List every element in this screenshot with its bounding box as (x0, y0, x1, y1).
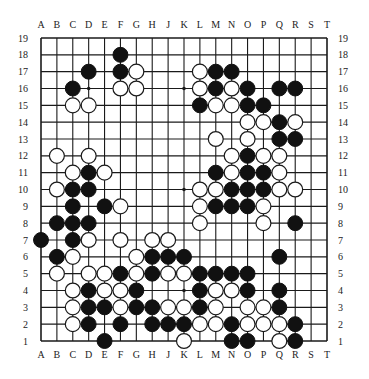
black-stone-Q16 (272, 81, 287, 96)
black-stone-Q4 (272, 283, 287, 298)
column-labels-top: ABCDEFGHJKLMNOPQRST (37, 19, 330, 30)
row-label: 12 (338, 150, 348, 161)
white-stone-K3 (177, 300, 192, 315)
column-label: P (261, 19, 267, 30)
white-stone-P8 (256, 216, 271, 231)
column-label: E (102, 19, 108, 30)
column-label: J (166, 19, 170, 30)
white-stone-C15 (65, 98, 80, 113)
white-stone-P12 (256, 148, 271, 163)
row-label: 6 (23, 251, 28, 262)
row-label: 10 (18, 184, 28, 195)
row-label: 17 (338, 66, 348, 77)
black-stone-F18 (113, 47, 128, 62)
black-stone-H6 (145, 249, 160, 264)
column-label: M (211, 349, 220, 360)
column-label: B (54, 19, 61, 30)
white-stone-M10 (208, 182, 223, 197)
row-label: 5 (23, 268, 28, 279)
white-stone-G17 (129, 64, 144, 79)
go-board: ABCDEFGHJKLMNOPQRST ABCDEFGHJKLMNOPQRST … (0, 0, 369, 379)
row-label: 3 (23, 302, 28, 313)
white-stone-N12 (224, 148, 239, 163)
white-stone-B10 (49, 182, 64, 197)
row-label: 14 (18, 117, 28, 128)
white-stone-F3 (113, 300, 128, 315)
star-point (87, 87, 91, 91)
black-stone-O5 (240, 266, 255, 281)
white-stone-N16 (224, 81, 239, 96)
column-label: N (228, 19, 235, 30)
star-point (182, 188, 186, 192)
column-label: S (308, 19, 314, 30)
column-label: R (292, 349, 299, 360)
column-label: T (324, 349, 330, 360)
row-label: 6 (338, 251, 343, 262)
black-stone-H2 (145, 317, 160, 332)
white-stone-M3 (208, 300, 223, 315)
black-stone-O4 (240, 283, 255, 298)
white-stone-Q12 (272, 148, 287, 163)
white-stone-M15 (208, 98, 223, 113)
white-stone-G5 (129, 266, 144, 281)
white-stone-O3 (240, 300, 255, 315)
row-label: 19 (338, 33, 348, 44)
white-stone-C3 (65, 300, 80, 315)
black-stone-B6 (49, 249, 64, 264)
black-stone-L15 (192, 98, 207, 113)
black-stone-M5 (208, 266, 223, 281)
black-stone-M17 (208, 64, 223, 79)
white-stone-G6 (129, 249, 144, 264)
white-stone-B12 (49, 148, 64, 163)
row-label: 16 (18, 83, 28, 94)
row-label: 18 (18, 49, 28, 60)
black-stone-L5 (192, 266, 207, 281)
white-stone-L9 (192, 199, 207, 214)
white-stone-O14 (240, 115, 255, 130)
black-stone-E1 (97, 334, 112, 349)
black-stone-F5 (113, 266, 128, 281)
white-stone-L17 (192, 64, 207, 79)
black-stone-F2 (113, 317, 128, 332)
row-label: 18 (338, 49, 348, 60)
black-stone-O10 (240, 182, 255, 197)
white-stone-Q1 (272, 334, 287, 349)
row-label: 2 (23, 319, 28, 330)
black-stone-C16 (65, 81, 80, 96)
column-label: T (324, 19, 330, 30)
column-label: F (118, 349, 124, 360)
black-stone-C7 (65, 233, 80, 248)
row-label: 7 (23, 235, 28, 246)
column-label: F (118, 19, 124, 30)
black-stone-K6 (177, 249, 192, 264)
black-stone-H5 (145, 266, 160, 281)
black-stone-D2 (81, 317, 96, 332)
column-label: N (228, 349, 235, 360)
black-stone-M9 (208, 199, 223, 214)
white-stone-K5 (177, 266, 192, 281)
white-stone-C6 (65, 249, 80, 264)
white-stone-D12 (81, 148, 96, 163)
white-stone-P14 (256, 115, 271, 130)
black-stone-Q13 (272, 132, 287, 147)
black-stone-C10 (65, 182, 80, 197)
black-stone-Q14 (272, 115, 287, 130)
row-label: 13 (338, 134, 348, 145)
row-label: 1 (338, 336, 343, 347)
white-stone-R10 (288, 182, 303, 197)
black-stone-E9 (97, 199, 112, 214)
row-labels-left: 19181716151413121110987654321 (18, 33, 28, 347)
white-stone-M13 (208, 132, 223, 147)
black-stone-C9 (65, 199, 80, 214)
black-stone-D11 (81, 165, 96, 180)
row-label: 11 (338, 167, 348, 178)
black-stone-O9 (240, 199, 255, 214)
column-label: G (133, 19, 140, 30)
white-stone-C4 (65, 283, 80, 298)
column-label: O (244, 349, 251, 360)
black-stone-N2 (224, 317, 239, 332)
column-label: B (54, 349, 61, 360)
black-stone-N10 (224, 182, 239, 197)
white-stone-C2 (65, 317, 80, 332)
row-label: 5 (338, 268, 343, 279)
